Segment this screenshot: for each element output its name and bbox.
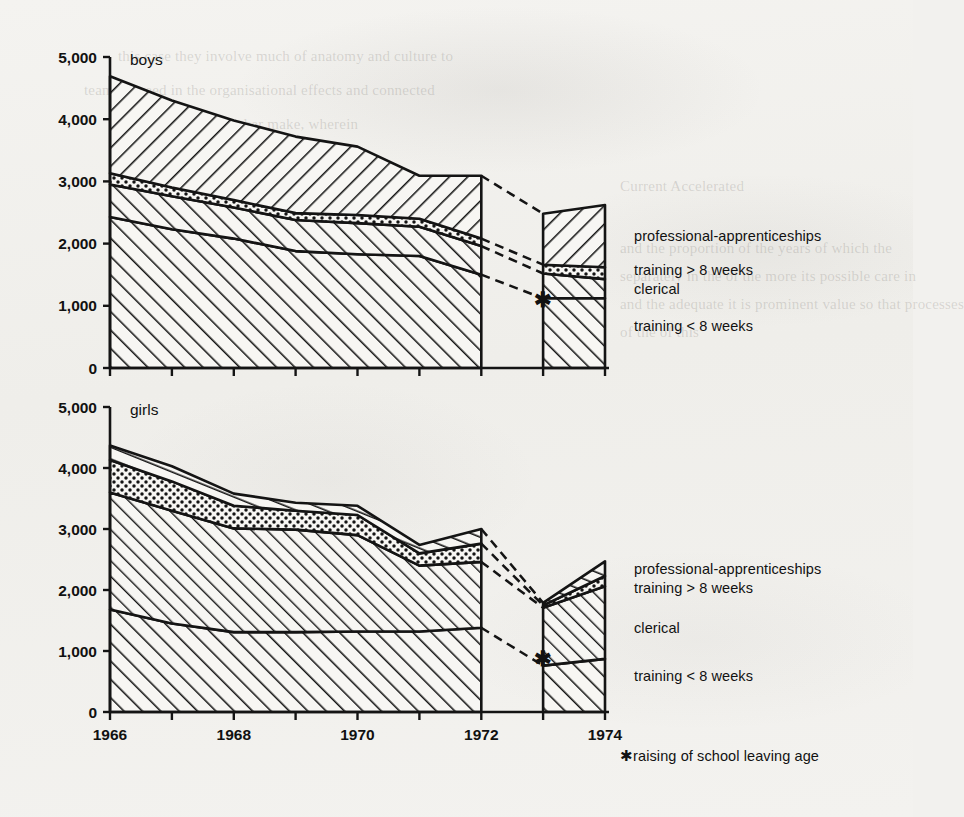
footnote-raising-school-leaving-age: ✱raising of school leaving age: [620, 748, 819, 764]
y-tick-label: 5,000: [58, 399, 97, 416]
legend-girls-training-gt-8-weeks: training > 8 weeks: [634, 580, 753, 596]
y-tick-label: 2,000: [58, 582, 97, 599]
gap-connector-girls-3: [481, 529, 543, 603]
star-marker-girls: ✱: [534, 647, 552, 670]
y-tick-label: 1,000: [58, 297, 97, 314]
x-tick-label: 1972: [464, 726, 498, 743]
legend-girls-clerical: clerical: [634, 620, 680, 636]
legend-boys-professional-apprenticeships: professional-apprenticeships: [634, 228, 821, 244]
x-tick-label: 1974: [588, 726, 623, 743]
panel-girls: 01,0002,0003,0004,0005,00019661968197019…: [58, 399, 622, 744]
y-tick-label: 4,000: [58, 460, 97, 477]
y-tick-label: 0: [88, 704, 97, 721]
legend-boys-clerical: clerical: [634, 281, 680, 297]
x-tick-label: 1970: [340, 726, 374, 743]
y-tick-label: 4,000: [58, 111, 97, 128]
gap-connector-boys-3: [481, 176, 543, 214]
x-tick-label: 1968: [217, 726, 252, 743]
y-tick-label: 0: [88, 360, 97, 377]
panel-title-girls: girls: [130, 401, 159, 418]
panel-boys: 01,0002,0003,0004,0005,000boys✱: [58, 49, 609, 377]
gap-connector-girls-1: [481, 562, 543, 608]
legend-boys-training-lt-8-weeks: training < 8 weeks: [634, 318, 753, 334]
legend-boys-training-gt-8-weeks: training > 8 weeks: [634, 262, 753, 278]
gap-connector-girls-2: [481, 544, 543, 606]
panel-title-boys: boys: [130, 51, 163, 68]
y-tick-label: 2,000: [58, 235, 97, 252]
band-girls-training-8-weeks: [543, 659, 605, 712]
legend-girls-training-lt-8-weeks: training < 8 weeks: [634, 668, 753, 684]
y-tick-label: 3,000: [58, 521, 97, 538]
x-tick-label: 1966: [93, 726, 128, 743]
y-tick-label: 1,000: [58, 643, 97, 660]
y-tick-label: 5,000: [58, 49, 97, 66]
star-marker-boys: ✱: [534, 288, 552, 311]
band-boys-professional-apprenticeships: [543, 205, 605, 267]
legend-girls-professional-apprenticeships: professional-apprenticeships: [634, 561, 821, 577]
band-boys-training-8-weeks: [543, 298, 605, 368]
y-tick-label: 3,000: [58, 173, 97, 190]
gap-connector-boys-1: [481, 246, 543, 273]
